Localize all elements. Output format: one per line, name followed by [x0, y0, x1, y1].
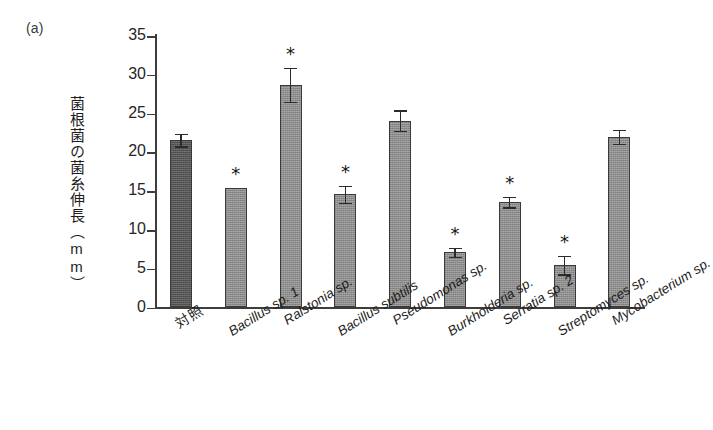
y-tick-label: 20	[106, 142, 146, 160]
significance-asterisk-3: *	[335, 163, 355, 181]
error-bar-cap-0-upper	[175, 134, 188, 135]
y-tick-label: 35	[106, 26, 146, 44]
y-tick-label: 15	[106, 181, 146, 199]
error-bar-cap-3-lower	[339, 203, 352, 204]
error-bar-stem-8	[619, 130, 620, 144]
bar-1	[225, 188, 247, 307]
significance-asterisk-2: *	[281, 45, 301, 63]
error-bar-cap-4-upper	[394, 110, 407, 111]
y-tick-mark	[147, 230, 156, 232]
error-bar-stem-2	[290, 68, 291, 102]
y-tick-label: 5	[106, 259, 146, 277]
significance-asterisk-6: *	[500, 174, 520, 192]
error-bar-stem-3	[345, 186, 346, 203]
significance-asterisk-5: *	[445, 225, 465, 243]
error-bar-stem-7	[564, 256, 565, 275]
y-tick-label: 10	[106, 220, 146, 238]
y-tick-mark	[147, 308, 156, 310]
y-tick-mark	[147, 152, 156, 154]
error-bar-cap-2-lower	[284, 102, 297, 103]
y-tick-mark	[147, 36, 156, 38]
error-bar-cap-7-upper	[558, 256, 571, 257]
error-bar-cap-8-upper	[613, 130, 626, 131]
error-bar-cap-8-lower	[613, 144, 626, 145]
error-bar-cap-6-lower	[503, 207, 516, 208]
y-tick-label: 0	[106, 298, 146, 316]
y-tick-mark	[147, 75, 156, 77]
error-bar-cap-3-upper	[339, 186, 352, 187]
y-tick-mark	[147, 269, 156, 271]
panel-label: (a)	[26, 20, 44, 36]
error-bar-cap-6-upper	[503, 197, 516, 198]
error-bar-stem-4	[400, 110, 401, 130]
error-bar-cap-2-upper	[284, 68, 297, 69]
significance-asterisk-7: *	[555, 233, 575, 251]
y-tick-label: 25	[106, 104, 146, 122]
error-bar-cap-4-lower	[394, 131, 407, 132]
error-bar-cap-5-upper	[449, 248, 462, 249]
bar-2	[280, 85, 302, 308]
y-axis-label: 菌根菌の菌糸伸長（mm）	[60, 96, 84, 292]
y-tick-mark	[147, 191, 156, 193]
error-bar-cap-0-lower	[175, 146, 188, 147]
error-bar-stem-5	[454, 248, 455, 257]
y-tick-mark	[147, 114, 156, 116]
error-bar-stem-6	[509, 197, 510, 208]
bar-0	[170, 140, 192, 308]
significance-asterisk-1: *	[226, 165, 246, 183]
error-bar-cap-5-lower	[449, 257, 462, 258]
error-bar-stem-0	[180, 134, 181, 146]
y-tick-label: 30	[106, 65, 146, 83]
